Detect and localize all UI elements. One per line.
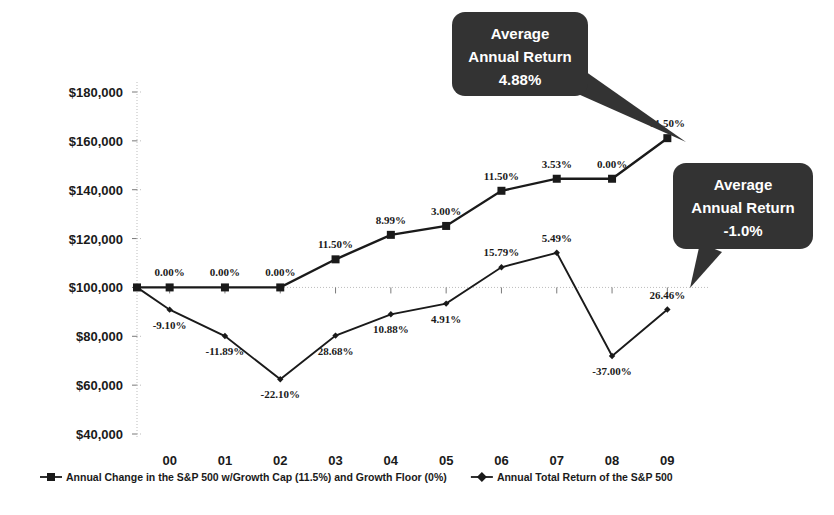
legend-group: Annual Change in the S&P 500 w/Growth Ca… bbox=[40, 471, 673, 483]
x-axis-tick-label: 04 bbox=[384, 453, 399, 468]
gridlines-group bbox=[137, 92, 710, 434]
data-point-marker bbox=[497, 187, 505, 195]
x-axis-tick-label: 09 bbox=[660, 453, 674, 468]
data-point-label: 26.46% bbox=[649, 289, 685, 301]
data-point-label: -9.10% bbox=[153, 319, 187, 331]
data-point-label: 28.68% bbox=[318, 345, 354, 357]
data-point-label: -22.10% bbox=[261, 388, 300, 400]
callout-line: 4.88% bbox=[499, 71, 542, 88]
data-point-label: 3.00% bbox=[431, 205, 461, 217]
data-point-label: 4.91% bbox=[431, 313, 461, 325]
series-line-capped bbox=[137, 138, 667, 287]
data-point-label: -37.00% bbox=[592, 365, 631, 377]
data-point-marker bbox=[276, 283, 284, 291]
legend-item: Annual Total Return of the S&P 500 bbox=[471, 471, 673, 483]
data-point-marker bbox=[387, 231, 395, 239]
x-axis-tick-label: 00 bbox=[162, 453, 176, 468]
data-point-label: 0.00% bbox=[597, 158, 627, 170]
legend-marker-diamond bbox=[477, 472, 487, 482]
callout-capped: AverageAnnual Return4.88% bbox=[452, 12, 686, 142]
data-point-label: 11.50% bbox=[318, 238, 353, 250]
data-point-label: 10.88% bbox=[373, 323, 409, 335]
data-point-label: 3.53% bbox=[542, 158, 572, 170]
data-point-marker bbox=[608, 175, 616, 183]
callout-line: Average bbox=[714, 176, 773, 193]
data-point-marker bbox=[388, 311, 394, 317]
line-chart: $180,000$160,000$140,000$120,000$100,000… bbox=[0, 0, 834, 515]
y-axis-tick-label: $60,000 bbox=[76, 378, 123, 393]
data-point-marker bbox=[166, 283, 174, 291]
legend-marker-square bbox=[47, 473, 55, 481]
data-point-marker bbox=[221, 283, 229, 291]
callout-line: Annual Return bbox=[691, 199, 794, 216]
y-axis-tick-label: $80,000 bbox=[76, 329, 123, 344]
data-point-label: 8.99% bbox=[376, 214, 406, 226]
data-point-marker bbox=[553, 175, 561, 183]
data-point-label: 15.79% bbox=[484, 246, 520, 258]
data-point-marker bbox=[442, 222, 450, 230]
legend-item: Annual Change in the S&P 500 w/Growth Ca… bbox=[40, 471, 447, 483]
x-axis-tick-label: 06 bbox=[494, 453, 508, 468]
y-axis-group: $180,000$160,000$140,000$120,000$100,000… bbox=[69, 82, 137, 442]
legend-label: Annual Total Return of the S&P 500 bbox=[497, 471, 673, 483]
callout-sp500: AverageAnnual Return-1.0% bbox=[673, 163, 813, 288]
callout-tail bbox=[572, 62, 686, 142]
x-axis-tick-label: 02 bbox=[273, 453, 287, 468]
chart-container: $180,000$160,000$140,000$120,000$100,000… bbox=[0, 0, 834, 515]
x-axis-tick-label: 01 bbox=[218, 453, 232, 468]
data-point-label: 0.00% bbox=[155, 266, 185, 278]
data-point-label: 0.00% bbox=[265, 266, 295, 278]
y-axis-tick-label: $120,000 bbox=[69, 232, 123, 247]
data-point-label: 11.50% bbox=[484, 170, 519, 182]
y-axis-tick-label: $40,000 bbox=[76, 427, 123, 442]
data-labels-group: 0.00%0.00%0.00%11.50%8.99%3.00%11.50%3.5… bbox=[153, 117, 686, 400]
data-point-label: -11.89% bbox=[206, 345, 245, 357]
y-axis-tick-label: $100,000 bbox=[69, 280, 123, 295]
data-point-label: 0.00% bbox=[210, 266, 240, 278]
x-axis-tick-label: 03 bbox=[328, 453, 342, 468]
callout-line: -1.0% bbox=[723, 222, 762, 239]
x-axis-tick-label: 07 bbox=[550, 453, 564, 468]
legend-label: Annual Change in the S&P 500 w/Growth Ca… bbox=[66, 471, 447, 483]
data-point-marker bbox=[332, 255, 340, 263]
y-axis-tick-label: $160,000 bbox=[69, 134, 123, 149]
x-axis-tick-label: 05 bbox=[439, 453, 453, 468]
y-axis-tick-label: $180,000 bbox=[69, 85, 123, 100]
callout-line: Annual Return bbox=[468, 48, 571, 65]
data-point-label: 5.49% bbox=[542, 232, 572, 244]
x-axis-group: 00010203040506070809 bbox=[162, 287, 674, 468]
x-axis-tick-label: 08 bbox=[605, 453, 619, 468]
data-point-marker bbox=[663, 134, 671, 142]
callout-line: Average bbox=[491, 25, 550, 42]
callout-tail bbox=[690, 243, 722, 288]
y-axis-tick-label: $140,000 bbox=[69, 183, 123, 198]
